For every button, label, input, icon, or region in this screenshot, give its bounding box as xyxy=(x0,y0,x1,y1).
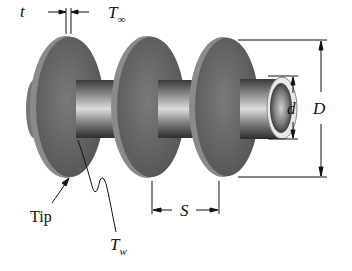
label-thickness-t: t xyxy=(20,3,25,20)
label-tip: Tip xyxy=(30,209,52,225)
diagram-drawing xyxy=(0,0,352,271)
label-ambient-temp: T∞ xyxy=(108,4,125,21)
label-inner-diameter-d: d xyxy=(287,100,296,117)
label-wall-temp: Tw xyxy=(110,236,127,253)
label-ambient-temp-sub: ∞ xyxy=(117,13,125,25)
label-outer-diameter-D: D xyxy=(313,100,325,117)
label-wall-temp-sub: w xyxy=(119,245,126,257)
annular-fin-diagram: t T∞ d D S Tip Tw xyxy=(0,0,352,271)
label-spacing-S: S xyxy=(180,202,189,219)
